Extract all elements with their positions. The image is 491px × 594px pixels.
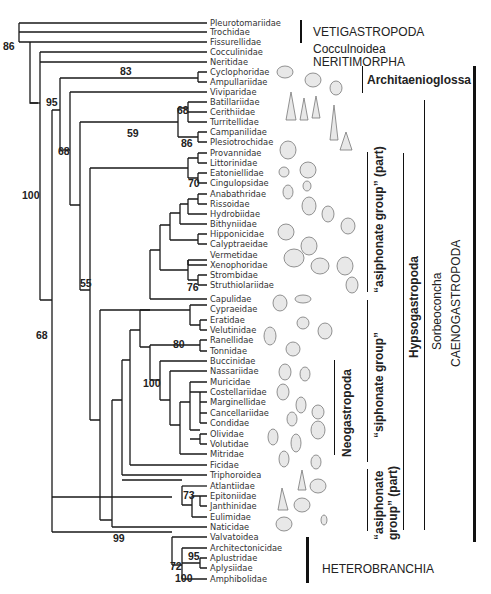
taxon-label: Provannidae [210,148,261,158]
taxon-label: Amphibolidae [210,574,267,584]
taxon-label: Eatoniellidae [210,168,264,178]
support-value: 73 [183,490,195,501]
taxon-label: Turritellidae [210,117,259,127]
taxon-label: Ranellidae [210,335,253,345]
neogastropoda-label: Neogastropoda [340,369,354,457]
taxon-label: Cingulopsidae [210,178,269,188]
vetigastropoda-label: VETIGASTROPODA [313,25,424,39]
support-value: 83 [120,66,132,77]
taxon-label: Anabathridae [210,189,266,199]
neritimorpha-label: NERITIMORPHA [313,55,405,69]
siphonate-label: “siphonate group” [372,332,386,438]
taxon-label: Epitoniidae [210,491,256,501]
taxon-label: Architectonicidae [210,543,282,553]
taxon-label: Valvatoidea [210,532,259,542]
support-value: 68 [58,146,70,157]
taxon-label: Buccinidae [210,356,255,366]
support-value: 95 [46,97,58,108]
taxon-label: Viviparidae [210,87,257,97]
taxon-label: Naticidae [210,522,249,532]
taxon-label: Ficidae [210,460,239,470]
neogastropoda-bar [334,360,335,455]
taxon-label: Marginellidae [210,397,266,407]
support-value: 100 [175,573,193,584]
architaenioglossa-label: Architaenioglossa [367,73,471,87]
taxon-label: Vermetidae [210,250,258,260]
taxon-label: Costellariidae [210,387,267,397]
taxon-label: Cypraeidae [210,304,257,314]
taxon-label: Aplustridae [210,553,257,563]
taxon-label: Littorinidae [210,158,257,168]
taxon-label: Trochidae [210,27,250,37]
taxon-label: Condidae [210,418,249,428]
taxon-label: Campanilidae [210,127,267,137]
heterobranchia-label: HETEROBRANCHIA [322,562,434,576]
sorbeoconcha-bar [424,100,425,530]
taxon-label: Cyclophoridae [210,67,269,77]
taxon-label: Hipponicidae [210,229,264,239]
support-value: 68 [36,330,48,341]
sorbeoconcha-label: Sorbeoconcha [430,273,444,350]
taxon-label: Triphoroidea [210,470,261,480]
taxon-label: Rissoidae [210,199,250,209]
caenogastropoda-bar [473,66,476,542]
taxon-label: Eratidae [210,315,245,325]
taxon-label: Hydrobiidae [210,209,260,219]
taxon-label: Atlantiidae [210,481,255,491]
support-value: 100 [143,378,161,389]
asiphonate-upper-bar [367,152,368,292]
taxon-label: Mitridae [210,449,244,459]
taxon-label: Janthinidae [210,501,257,511]
vetigastropoda-bar [300,20,302,43]
taxon-label: Olividae [210,429,244,439]
taxon-label: Plesiotrochidae [210,137,273,147]
taxon-label: Strombidae [210,270,258,280]
taxon-label: Fissurellidae [210,37,261,47]
taxon-label: Xenophoridae [210,260,268,270]
hypsogastropoda-label: Hypsogastropoda [407,256,421,358]
support-value: 80 [173,339,185,350]
taxon-label: Neritidae [210,57,248,67]
support-value: 72 [170,561,182,572]
asiphonate-upper-label: “asiphonate group” (part) [372,146,386,293]
taxon-label: Capulidae [210,294,251,304]
support-value: 76 [187,282,199,293]
taxon-label: Muricidae [210,377,250,387]
taxon-label: Nassariidae [210,366,259,376]
taxon-label: Aplysiidae [210,563,253,573]
taxon-label: Cocculinidae [210,47,263,57]
taxon-label: Ampullariidae [210,77,267,87]
taxon-label: Eulimidae [210,512,251,522]
support-value: 55 [80,278,92,289]
siphonate-bar [367,300,368,462]
support-value: 100 [22,190,40,201]
taxon-label: Calyptraeidae [210,239,268,249]
support-value: 59 [127,128,139,139]
taxon-label: Bithyniidae [210,219,257,229]
support-value: 95 [188,551,200,562]
heterobranchia-bar [306,537,309,583]
taxon-label: Batillariidae [210,97,260,107]
asiphonate-lower-label-2: group” (part) [386,466,400,540]
cocculinoidea-label: Cocculnoidea [313,42,386,56]
support-value: 86 [3,41,15,52]
taxon-label: Struthiolariidae [210,280,274,290]
hypsogastropoda-bar [403,153,404,530]
support-value: 99 [113,533,125,544]
support-value: 70 [188,178,200,189]
asiphonate-lower-bar [367,469,368,531]
support-value: 68 [177,105,189,116]
taxon-label: Cerithiidae [210,107,255,117]
taxon-label: Velutinidae [210,325,256,335]
shell-illustrations [264,66,358,531]
asiphonate-lower-label-1: “asiphonate [372,471,386,540]
taxon-label: Tonnidae [210,346,247,356]
taxon-label: Cancellariidae [210,408,269,418]
support-value: 86 [181,138,193,149]
architaenioglossa-bar [362,66,363,93]
taxon-label: Volutidae [210,439,249,449]
caenogastropoda-label: CAENOGASTROPODA [449,240,463,367]
